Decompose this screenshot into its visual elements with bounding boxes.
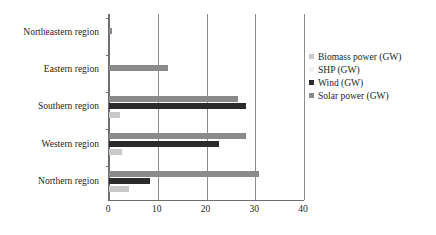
axis-tick (106, 166, 109, 167)
bar-group (109, 55, 304, 85)
legend-item[interactable]: SHP (GW) (309, 63, 435, 76)
legend-swatch-icon (309, 93, 314, 98)
bar (109, 141, 219, 147)
bar (109, 28, 112, 34)
value-tick-label: 40 (298, 203, 308, 215)
bar (109, 112, 120, 118)
bar-group (109, 92, 304, 122)
legend-item[interactable]: Wind (GW) (309, 76, 435, 89)
bar (109, 149, 122, 155)
axis-tick (106, 55, 109, 56)
legend-swatch-icon (309, 80, 314, 85)
bar (109, 65, 168, 71)
gridline (304, 14, 305, 200)
category-label: Northern region (0, 176, 104, 187)
axis-tick (106, 92, 109, 93)
category-axis-labels: Northeastern regionEastern regionSouther… (0, 14, 104, 200)
value-tick-label: 30 (250, 203, 260, 215)
value-tick-label: 0 (106, 203, 111, 215)
value-axis-tick-labels: 010203040 (108, 203, 303, 219)
legend-label: Wind (GW) (318, 77, 363, 89)
value-tick-label: 10 (152, 203, 162, 215)
plot-area (108, 14, 304, 200)
category-label: Eastern region (0, 64, 104, 75)
bar (109, 133, 246, 139)
legend-label: Biomass power (GW) (318, 51, 401, 63)
category-label: Northeastern region (0, 27, 104, 38)
legend-item[interactable]: Solar power (GW) (309, 89, 435, 102)
bar-chart-figure: Northeastern regionEastern regionSouther… (0, 0, 436, 235)
bar (109, 171, 259, 177)
axis-tick (106, 18, 109, 19)
value-axis-line (108, 200, 304, 201)
legend-swatch-icon (309, 67, 314, 72)
axis-tick (106, 129, 109, 130)
category-label: Southern region (0, 101, 104, 112)
bar-group (109, 18, 304, 48)
legend-swatch-icon (309, 54, 314, 59)
bar (109, 96, 238, 102)
legend-label: SHP (GW) (318, 64, 360, 76)
bar-groups (109, 14, 304, 200)
chart-legend: Biomass power (GW)SHP (GW)Wind (GW)Solar… (309, 50, 435, 102)
bar-group (109, 166, 304, 196)
bar (109, 178, 150, 184)
category-label: Western region (0, 139, 104, 150)
legend-label: Solar power (GW) (318, 90, 389, 102)
bar (109, 103, 246, 109)
bar-group (109, 129, 304, 159)
legend-item[interactable]: Biomass power (GW) (309, 50, 435, 63)
value-tick-label: 20 (201, 203, 211, 215)
bar (109, 186, 129, 192)
